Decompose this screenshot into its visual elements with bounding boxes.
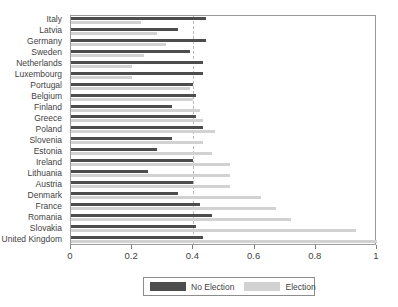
- bar-no-election: [71, 137, 172, 140]
- y-axis-label: Romania: [28, 213, 62, 222]
- y-axis-label: Ireland: [36, 158, 62, 167]
- bar-row: [71, 27, 375, 38]
- y-axis-label: Italy: [46, 15, 62, 24]
- bar-row: [71, 191, 375, 202]
- chart-root: ItalyLatviaGermanySwedenNetherlandsLuxem…: [0, 0, 398, 307]
- y-axis-label: Finland: [34, 103, 62, 112]
- bar-election: [71, 141, 203, 144]
- bar-no-election: [71, 72, 203, 75]
- x-axis-tick: [376, 245, 377, 249]
- y-axis-label: Belgium: [31, 92, 62, 101]
- bar-row: [71, 136, 375, 147]
- bar-row: [71, 93, 375, 104]
- bar-election: [71, 207, 276, 210]
- legend-swatch-no-election: [150, 282, 186, 291]
- y-axis-label: Denmark: [28, 191, 62, 200]
- bar-election: [71, 163, 230, 166]
- plot-area: [70, 15, 376, 245]
- bar-no-election: [71, 203, 200, 206]
- x-axis-tick-label: 0.8: [308, 250, 321, 261]
- bar-election: [71, 21, 141, 24]
- x-axis-tick: [315, 245, 316, 249]
- bar-row: [71, 202, 375, 213]
- y-axis-category-labels: ItalyLatviaGermanySwedenNetherlandsLuxem…: [0, 15, 66, 245]
- y-axis-label: Sweden: [31, 48, 62, 57]
- y-axis-label: Portugal: [30, 81, 62, 90]
- bar-election: [71, 185, 230, 188]
- bar-election: [71, 119, 203, 122]
- x-axis-tick-label: 0.6: [247, 250, 260, 261]
- bar-election: [71, 109, 200, 112]
- bar-no-election: [71, 181, 193, 184]
- bar-no-election: [71, 236, 203, 239]
- bar-election: [71, 130, 215, 133]
- bar-no-election: [71, 214, 212, 217]
- bar-row: [71, 213, 375, 224]
- y-axis-label: Netherlands: [16, 59, 62, 68]
- legend-item-no-election: No Election: [150, 282, 244, 292]
- bar-election: [71, 32, 157, 35]
- y-axis-label: Slovakia: [30, 224, 62, 233]
- y-axis-label: France: [36, 202, 62, 211]
- legend-item-election: Election: [244, 282, 325, 292]
- bar-no-election: [71, 115, 196, 118]
- y-axis-label: Luxembourg: [15, 70, 62, 79]
- legend-swatch-election: [244, 282, 280, 291]
- bar-no-election: [71, 94, 196, 97]
- bar-no-election: [71, 105, 172, 108]
- bar-row: [71, 158, 375, 169]
- y-axis-label: Germany: [27, 37, 62, 46]
- bar-row: [71, 71, 375, 82]
- bar-no-election: [71, 39, 206, 42]
- bar-election: [71, 43, 166, 46]
- bar-election: [71, 54, 144, 57]
- x-axis-tick-label: 1: [373, 250, 378, 261]
- x-axis-tick-label: 0: [67, 250, 72, 261]
- bar-row: [71, 169, 375, 180]
- bar-no-election: [71, 28, 178, 31]
- bar-no-election: [71, 126, 203, 129]
- bar-row: [71, 125, 375, 136]
- x-axis-tick: [192, 245, 193, 249]
- y-axis-label: Latvia: [39, 26, 62, 35]
- bar-election: [71, 196, 261, 199]
- bar-row: [71, 104, 375, 115]
- bar-no-election: [71, 50, 190, 53]
- y-axis-label: Estonia: [34, 147, 62, 156]
- bar-election: [71, 87, 190, 90]
- bar-no-election: [71, 159, 193, 162]
- bar-row: [71, 224, 375, 235]
- bar-no-election: [71, 192, 178, 195]
- bar-election: [71, 229, 356, 232]
- x-axis: 00.20.40.60.81: [70, 245, 376, 267]
- bar-row: [71, 49, 375, 60]
- bar-no-election: [71, 148, 157, 151]
- bar-rows-container: [71, 16, 375, 244]
- bar-row: [71, 180, 375, 191]
- bar-election: [71, 218, 291, 221]
- y-axis-label: Slovenia: [29, 136, 62, 145]
- bar-no-election: [71, 61, 203, 64]
- y-axis-label: Greece: [34, 114, 62, 123]
- bar-election: [71, 240, 377, 243]
- bar-no-election: [71, 225, 196, 228]
- y-axis-label: Poland: [36, 125, 62, 134]
- bar-no-election: [71, 83, 193, 86]
- bar-row: [71, 82, 375, 93]
- x-axis-tick-label: 0.4: [186, 250, 199, 261]
- x-axis-tick: [254, 245, 255, 249]
- bar-row: [71, 60, 375, 71]
- chart-legend: No Election Election: [143, 277, 315, 296]
- legend-label-no-election: No Election: [191, 282, 234, 292]
- bar-election: [71, 76, 132, 79]
- bar-election: [71, 152, 212, 155]
- bar-election: [71, 174, 230, 177]
- legend-label-election: Election: [285, 282, 315, 292]
- y-axis-label: United Kingdom: [2, 235, 62, 244]
- x-axis-tick-label: 0.2: [125, 250, 138, 261]
- bar-row: [71, 38, 375, 49]
- bar-row: [71, 16, 375, 27]
- bar-row: [71, 147, 375, 158]
- y-axis-label: Lithuania: [27, 169, 62, 178]
- bar-row: [71, 114, 375, 125]
